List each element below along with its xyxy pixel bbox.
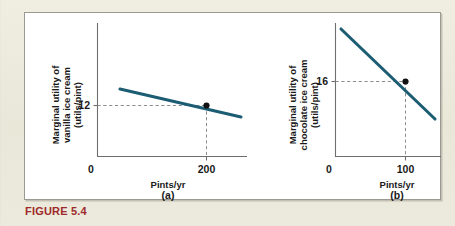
chart-panel: Marginal utility of vanilla ice cream (u… bbox=[24, 12, 441, 200]
panel-b-group: Marginal utility of chocolate ice cream … bbox=[287, 23, 441, 201]
panel-b-marginal-utility-curve bbox=[341, 29, 435, 119]
figure-caption: FIGURE 5.4 bbox=[25, 205, 87, 217]
figure-container: Marginal utility of vanilla ice cream (u… bbox=[0, 0, 455, 226]
panel-a-marginal-utility-curve bbox=[120, 89, 241, 117]
panel-b-y-axis-title-line-2: chocolate ice cream bbox=[298, 60, 309, 151]
panel-b-y-axis-title-line-3: (utils/pint) bbox=[309, 82, 320, 128]
panel-a-label: (a) bbox=[162, 189, 175, 201]
panel-a-y-tick-label: 12 bbox=[78, 99, 90, 111]
panel-b-label: (b) bbox=[390, 189, 403, 201]
panel-a-x-tick-label: 200 bbox=[198, 163, 216, 175]
panel-a-equilibrium-point bbox=[203, 102, 209, 108]
panel-a-group: Marginal utility of vanilla ice cream (u… bbox=[50, 23, 247, 201]
panel-b-y-axis-title: Marginal utility of chocolate ice cream … bbox=[287, 60, 320, 151]
panel-a-y-axis-title-line-1: Marginal utility of bbox=[50, 65, 61, 144]
panel-b-axes bbox=[336, 23, 442, 157]
panel-b-y-axis-title-line-1: Marginal utility of bbox=[287, 65, 298, 144]
figure-svg: Marginal utility of vanilla ice cream (u… bbox=[25, 13, 442, 201]
panel-b-origin-label: 0 bbox=[326, 163, 332, 175]
panel-a-y-axis-title-line-2: vanilla ice cream bbox=[61, 67, 72, 143]
panel-a-origin-label: 0 bbox=[88, 163, 94, 175]
chart-panel-inner: Marginal utility of vanilla ice cream (u… bbox=[25, 13, 440, 199]
panel-b-y-tick-label: 16 bbox=[316, 75, 328, 87]
panel-b-x-tick-label: 100 bbox=[397, 163, 415, 175]
panel-b-equilibrium-point bbox=[402, 78, 408, 84]
